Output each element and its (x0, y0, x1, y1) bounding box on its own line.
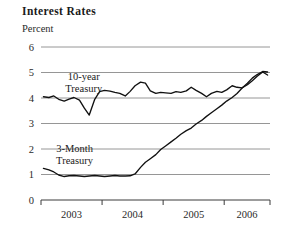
line-chart-plot: 0123456 2003200420052006 10-yearTreasury… (0, 0, 286, 240)
y-tick-label: 0 (29, 195, 34, 206)
x-tick-label: 2004 (122, 209, 144, 220)
x-tick-label: 2005 (183, 209, 204, 220)
x-tick-label: 2006 (237, 209, 258, 220)
x-axis-tick-labels: 2003200420052006 (61, 209, 258, 220)
series-annotation-label: Treasury (65, 83, 103, 94)
y-tick-label: 6 (29, 42, 34, 53)
series-annotation-label: Treasury (56, 155, 94, 166)
series-annotation-label: 3-Month (56, 143, 94, 154)
y-axis-tick-labels: 0123456 (29, 42, 35, 206)
series-annotations-group: 10-yearTreasury3-MonthTreasury (56, 71, 103, 166)
y-tick-label: 1 (29, 169, 34, 180)
y-tick-label: 2 (29, 144, 34, 155)
y-tick-label: 3 (29, 118, 34, 129)
x-tick-label: 2003 (61, 209, 82, 220)
y-tick-label: 5 (29, 67, 34, 78)
y-tick-label: 4 (29, 93, 35, 104)
series-annotation-label: 10-year (68, 71, 101, 82)
x-axis (41, 200, 270, 205)
interest-rates-chart-figure: Interest Rates Percent 0123456 200320042… (0, 0, 286, 240)
